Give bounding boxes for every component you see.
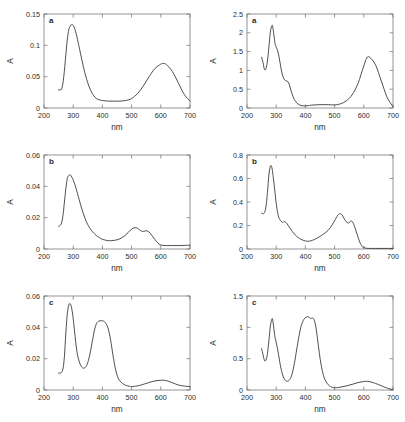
x-tick-label: 400 <box>299 252 311 261</box>
y-tick-label: 0.4 <box>233 198 243 207</box>
plot-frame <box>247 14 393 108</box>
y-tick-label: 0.02 <box>26 213 40 222</box>
panel-plot-c-right: 20030040050060070000.511.5Anmc <box>203 282 405 422</box>
x-tick-label: 600 <box>155 393 167 402</box>
y-tick-label: 0 <box>36 104 40 113</box>
y-axis-label: A <box>6 199 15 205</box>
y-axis-label: A <box>209 58 218 64</box>
spectrum-curve <box>262 317 393 390</box>
panel-letter: a <box>49 16 54 25</box>
panel-plot-a-left: 20030040050060070000.050.10.15Anma <box>0 0 203 141</box>
panel-plot-a-right: 20030040050060070000.511.522.5Anma <box>203 0 405 141</box>
y-tick-label: 0.1 <box>30 41 40 50</box>
y-tick-label: 1.5 <box>233 47 243 56</box>
y-tick-label: 0.8 <box>233 151 243 160</box>
x-tick-label: 600 <box>358 393 370 402</box>
y-axis-label: A <box>6 58 15 64</box>
x-tick-label: 400 <box>96 393 108 402</box>
x-tick-label: 600 <box>358 111 370 120</box>
x-axis-label: nm <box>111 405 123 414</box>
x-tick-label: 600 <box>358 252 370 261</box>
x-tick-label: 400 <box>299 111 311 120</box>
spectrum-curve <box>59 175 190 246</box>
x-axis-label: nm <box>314 123 326 132</box>
y-tick-label: 0.06 <box>26 292 40 301</box>
x-tick-label: 300 <box>270 393 282 402</box>
x-tick-label: 700 <box>184 393 196 402</box>
x-tick-label: 300 <box>270 252 282 261</box>
y-tick-label: 0 <box>239 104 243 113</box>
panel-letter: a <box>252 16 257 25</box>
x-tick-label: 300 <box>270 111 282 120</box>
y-tick-label: 1 <box>239 66 243 75</box>
x-tick-label: 500 <box>329 111 341 120</box>
panel-letter: b <box>49 157 54 166</box>
panel-letter: b <box>252 157 257 166</box>
x-axis-label: nm <box>314 264 326 273</box>
y-tick-label: 0.04 <box>26 323 40 332</box>
x-tick-label: 500 <box>126 111 138 120</box>
x-tick-label: 400 <box>96 111 108 120</box>
y-axis-label: A <box>209 340 218 346</box>
x-tick-label: 700 <box>387 111 399 120</box>
y-tick-label: 0.5 <box>233 354 243 363</box>
x-tick-label: 500 <box>329 393 341 402</box>
x-tick-label: 500 <box>126 252 138 261</box>
x-tick-label: 300 <box>67 111 79 120</box>
x-tick-label: 600 <box>155 111 167 120</box>
y-tick-label: 0.6 <box>233 174 243 183</box>
x-tick-label: 300 <box>67 252 79 261</box>
plot-frame <box>44 14 190 108</box>
spectra-figure-grid: 20030040050060070000.050.10.15Anma200300… <box>0 0 405 422</box>
y-axis-label: A <box>6 340 15 346</box>
y-tick-label: 2.5 <box>233 10 243 19</box>
y-axis-label: A <box>209 199 218 205</box>
x-tick-label: 500 <box>126 393 138 402</box>
x-axis-label: nm <box>111 123 123 132</box>
panel-plot-b-right: 20030040050060070000.20.40.60.8Anmb <box>203 141 405 282</box>
x-axis-label: nm <box>314 405 326 414</box>
y-tick-label: 0.2 <box>233 221 243 230</box>
y-tick-label: 0 <box>239 386 243 395</box>
panel-plot-c-left: 20030040050060070000.020.040.06Anmc <box>0 282 203 422</box>
x-tick-label: 700 <box>184 252 196 261</box>
spectrum-curve <box>262 165 393 248</box>
y-tick-label: 0 <box>239 245 243 254</box>
panel-plot-b-left: 20030040050060070000.020.040.06Anmb <box>0 141 203 282</box>
y-tick-label: 0 <box>36 245 40 254</box>
plot-frame <box>247 155 393 249</box>
x-tick-label: 300 <box>67 393 79 402</box>
x-tick-label: 700 <box>387 393 399 402</box>
y-tick-label: 1 <box>239 323 243 332</box>
y-tick-label: 1.5 <box>233 292 243 301</box>
panel-letter: c <box>49 298 54 307</box>
x-tick-label: 500 <box>329 252 341 261</box>
x-tick-label: 600 <box>155 252 167 261</box>
y-tick-label: 0.02 <box>26 354 40 363</box>
x-tick-label: 700 <box>184 111 196 120</box>
x-tick-label: 400 <box>299 393 311 402</box>
spectrum-curve <box>59 25 190 102</box>
spectrum-curve <box>59 303 190 386</box>
y-tick-label: 0.06 <box>26 151 40 160</box>
y-tick-label: 0.05 <box>26 72 40 81</box>
y-tick-label: 0.5 <box>233 85 243 94</box>
panel-letter: c <box>252 298 257 307</box>
y-tick-label: 2 <box>239 28 243 37</box>
y-tick-label: 0.04 <box>26 182 40 191</box>
plot-frame <box>44 155 190 249</box>
spectrum-curve <box>262 25 393 106</box>
x-axis-label: nm <box>111 264 123 273</box>
x-tick-label: 700 <box>387 252 399 261</box>
y-tick-label: 0.15 <box>26 10 40 19</box>
y-tick-label: 0 <box>36 386 40 395</box>
x-tick-label: 400 <box>96 252 108 261</box>
